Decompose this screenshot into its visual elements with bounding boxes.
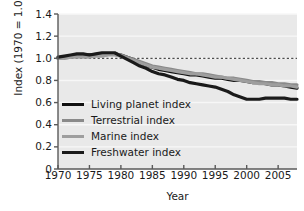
legend-item-label: Living planet index [91,99,191,110]
x-axis-tick-labels: 19701975198019851990199520002005 [0,170,304,186]
legend-item: Terrestrial index [62,113,191,128]
chart-legend: Living planet indexTerrestrial indexMari… [62,97,191,160]
legend-swatch-icon [62,151,84,154]
legend-item-label: Terrestrial index [91,115,175,126]
legend-item: Living planet index [62,97,191,112]
legend-swatch-icon [62,119,84,122]
legend-item-label: Freshwater index [91,147,181,158]
line-chart-figure: Index (1970 = 1.0) 1.41.21.00.80.60.40.2… [0,0,304,211]
legend-item: Marine index [62,129,191,144]
x-tick-label: 2005 [258,170,298,181]
legend-item-label: Marine index [91,131,159,142]
legend-swatch-icon [62,103,84,106]
legend-swatch-icon [62,135,84,138]
legend-item: Freshwater index [62,145,191,160]
x-axis-title: Year [55,190,300,202]
